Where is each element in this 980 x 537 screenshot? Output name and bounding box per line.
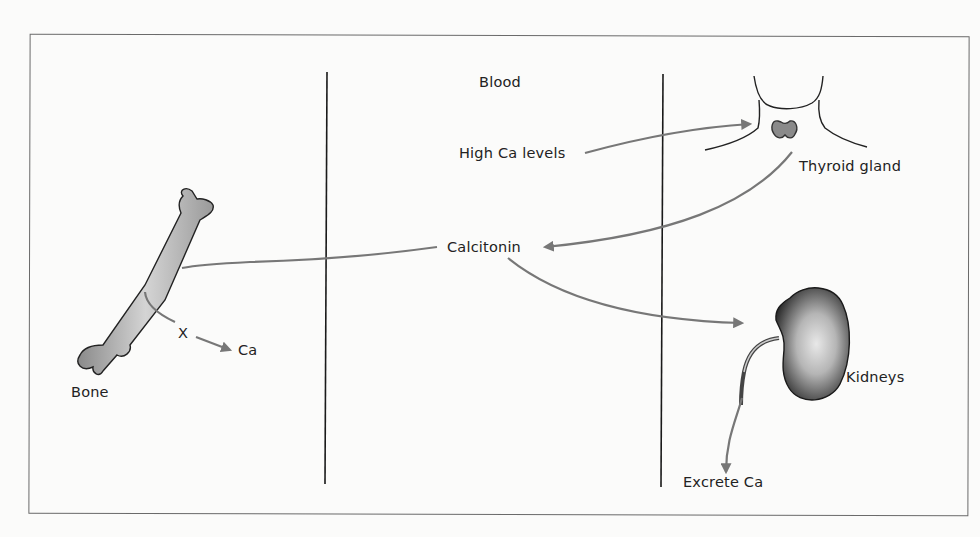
ca-release-label: Ca [238, 342, 257, 358]
arrow-kidney-excrete [726, 398, 742, 472]
excrete-ca-label: Excrete Ca [683, 474, 763, 490]
blocked-x-label: X [178, 325, 188, 341]
thyroid-gland-label: Thyroid gland [799, 158, 901, 174]
arrow-calcitonin-to-bone [182, 247, 437, 268]
arrow-thyroid-to-calcitonin [545, 152, 792, 247]
high-ca-label: High Ca levels [459, 145, 565, 161]
thyroid-gland-icon [705, 76, 867, 150]
kidneys-label: Kidneys [846, 369, 904, 385]
kidney-icon [741, 288, 849, 405]
arrows [145, 124, 792, 472]
arrow-bone-to-ca [196, 337, 230, 350]
arrow-calcitonin-to-kidney [508, 258, 742, 323]
blood-region-title: Blood [479, 74, 521, 90]
bone-icon [78, 189, 213, 375]
arrow-high-ca-to-thyroid [585, 124, 750, 153]
divider-left [325, 72, 327, 484]
bone-label: Bone [71, 384, 109, 400]
calcitonin-label: Calcitonin [447, 239, 521, 255]
